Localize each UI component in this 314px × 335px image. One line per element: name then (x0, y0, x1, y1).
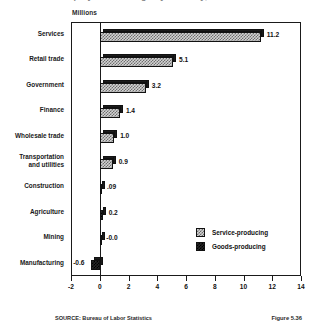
axis-tick (244, 276, 245, 281)
bar-value-label: -0.6 (73, 259, 84, 266)
bar-side-face (261, 29, 264, 37)
axis-tick-label: 2 (121, 283, 137, 290)
bar (100, 184, 102, 194)
category-label-line: Manufacturing (0, 259, 64, 266)
axis-tick (301, 276, 302, 281)
category-label-line: Government (0, 81, 64, 88)
bar-side-face (114, 130, 117, 138)
bar-value-label: 11.2 (267, 31, 279, 38)
goods-producing-swatch (196, 242, 205, 251)
category-label: Retail trade (0, 55, 64, 62)
bar (100, 210, 103, 220)
bar-row (100, 232, 101, 245)
bar (100, 32, 261, 42)
axis-unit-label: Millions (72, 9, 97, 16)
axis-tick (157, 276, 158, 281)
axis-tick (215, 276, 216, 281)
bar-row (100, 29, 261, 42)
bar-value-label: 0.9 (119, 158, 128, 165)
figure-container: Employment Change by Industry, 1988-2000… (0, 0, 314, 335)
category-label: Construction (0, 182, 64, 189)
axis-tick-label: 8 (207, 283, 223, 290)
bar-side-face (146, 80, 149, 88)
axis-tick (186, 276, 187, 281)
bar-side-face (102, 181, 105, 189)
axis-tick-label: 0 (92, 283, 108, 290)
axis-tick-label: 12 (264, 283, 280, 290)
category-label-line: Mining (0, 233, 64, 240)
category-label: Transportationand utilities (0, 153, 64, 168)
axis-tick (71, 276, 72, 281)
category-label-line: Construction (0, 182, 64, 189)
category-axis-labels: ServicesRetail tradeGovernmentFinanceWho… (0, 22, 68, 276)
bar-row (100, 54, 173, 67)
axis-tick-label: 14 (293, 283, 309, 290)
bar-side-face (100, 257, 103, 265)
bar (100, 159, 113, 169)
bar-top-face (103, 105, 121, 108)
legend-label: Goods-producing (212, 243, 266, 250)
bar-row (91, 257, 100, 270)
chart-title: Employment Change by Industry, 1988-2000 (0, 0, 314, 1)
figure-number: Figure 5.36 (271, 315, 302, 321)
category-label-line: and utilities (0, 161, 64, 168)
bar-value-label: 0.2 (109, 209, 118, 216)
category-label: Government (0, 81, 64, 88)
category-label-line: Transportation (0, 153, 64, 160)
category-label: Services (0, 30, 64, 37)
axis-tick (129, 276, 130, 281)
bar-value-label: -0.0 (106, 234, 117, 241)
bar-row (100, 105, 120, 118)
category-label-line: Retail trade (0, 55, 64, 62)
legend-item: Service-producing (196, 228, 294, 239)
axis-tick-label: 4 (149, 283, 165, 290)
bar-row (100, 156, 113, 169)
axis-tick (272, 276, 273, 281)
bar-side-face (113, 156, 116, 164)
bar-top-face (103, 80, 147, 83)
bar (100, 57, 173, 67)
category-label: Agriculture (0, 208, 64, 215)
bar (100, 108, 120, 118)
axis-tick-label: 10 (236, 283, 252, 290)
chart-legend: Service-producingGoods-producing (196, 228, 294, 264)
bar-value-label: 1.0 (120, 132, 129, 139)
service-producing-swatch (196, 228, 205, 237)
axis-tick (100, 276, 101, 281)
bar-top-face (103, 54, 174, 57)
value-axis: -202468101214 (71, 276, 301, 298)
bar-side-face (103, 207, 106, 215)
category-label: Finance (0, 106, 64, 113)
bar-row (100, 181, 101, 194)
axis-tick-label: 6 (178, 283, 194, 290)
bar-side-face (120, 105, 123, 113)
bar-side-face (102, 232, 105, 240)
category-label-line: Services (0, 30, 64, 37)
category-label-line: Finance (0, 106, 64, 113)
bar (91, 260, 100, 270)
category-label: Manufacturing (0, 259, 64, 266)
bar-row (100, 130, 114, 143)
axis-tick-label: -2 (63, 283, 79, 290)
bar-row (100, 207, 103, 220)
category-label-line: Wholesale trade (0, 132, 64, 139)
category-label: Mining (0, 233, 64, 240)
bar-value-label: 3.2 (152, 82, 161, 89)
bar-row (100, 80, 146, 93)
category-label: Wholesale trade (0, 132, 64, 139)
bar-value-label: .09 (107, 183, 116, 190)
legend-label: Service-producing (212, 229, 268, 236)
category-label-line: Agriculture (0, 208, 64, 215)
legend-item: Goods-producing (196, 242, 294, 253)
bar-value-label: 1.4 (126, 107, 135, 114)
bar-value-label: 5.1 (179, 56, 188, 63)
bar (100, 83, 146, 93)
bar (100, 133, 114, 143)
bar (100, 235, 102, 245)
bar-side-face (173, 54, 176, 62)
source-note: SOURCE: Bureau of Labor Statistics (55, 315, 152, 321)
bar-top-face (103, 29, 262, 32)
